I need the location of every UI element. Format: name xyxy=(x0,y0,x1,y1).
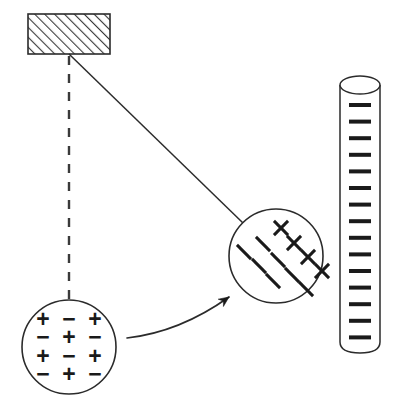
positive-charge-glyph: + xyxy=(62,361,75,387)
negative-charge-glyph: − xyxy=(88,361,101,387)
attraction-arrow-group xyxy=(127,297,229,338)
ceiling-block-hatching xyxy=(28,14,110,54)
pendulum-string-line xyxy=(69,54,243,223)
charged-rod-tick-marks xyxy=(349,105,371,337)
charged-rod-top-ellipse xyxy=(340,76,380,94)
attraction-arrow-head xyxy=(218,297,229,306)
neutral-sphere-group: +−+−+−+−+−+− xyxy=(22,300,116,394)
charged-sphere-group xyxy=(229,209,336,303)
charged-rod-body xyxy=(340,85,380,353)
ceiling-support-group xyxy=(28,14,110,54)
negative-charge-glyph: − xyxy=(36,361,49,387)
neutral-sphere-charge-grid: +−+−+−+−+−+− xyxy=(36,306,101,387)
physics-diagram-canvas: +−+−+−+−+−+− xyxy=(0,0,396,418)
diagram-svg: +−+−+−+−+−+− xyxy=(0,0,396,418)
charged-rod-group xyxy=(340,76,380,353)
attraction-arrow-curve xyxy=(127,297,229,338)
